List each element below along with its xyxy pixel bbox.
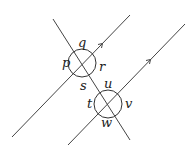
angle-label-w: w (101, 115, 112, 130)
parallel-lines-transversal-diagram: p q r s u t v w (0, 0, 195, 152)
angle-circle-top (68, 49, 96, 77)
angle-label-s: s (80, 78, 87, 93)
angle-label-u: u (104, 76, 112, 91)
angle-label-t: t (87, 96, 93, 111)
angle-label-q: q (78, 35, 86, 50)
transversal-line (53, 19, 130, 140)
angle-label-p: p (62, 55, 71, 70)
angle-label-r: r (99, 59, 106, 74)
angle-label-v: v (125, 96, 133, 111)
